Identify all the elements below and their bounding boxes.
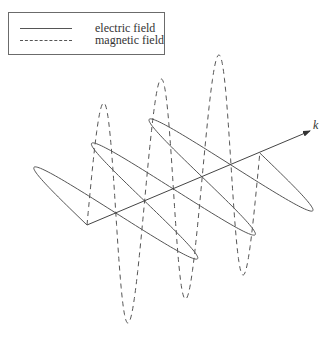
legend-label: magnetic field: [95, 33, 164, 47]
legend-item-magnetic: magnetic field: [9, 33, 164, 47]
legend: electric field magnetic field: [8, 12, 165, 55]
dashed-line-icon: [20, 40, 72, 41]
solid-line-icon: [20, 28, 72, 29]
axis-label-k: k: [313, 118, 318, 133]
